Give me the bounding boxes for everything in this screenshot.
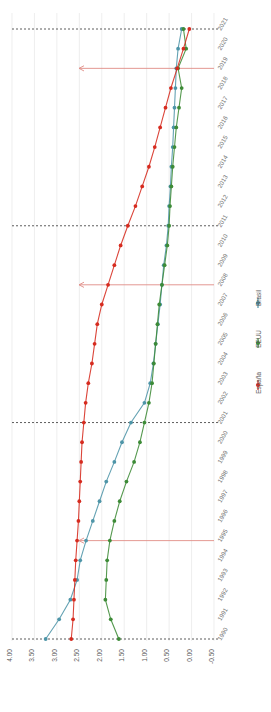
data-point [165, 244, 169, 248]
value-axis-tick: 1.50 [118, 649, 125, 662]
data-point [163, 263, 167, 267]
data-point [120, 440, 124, 444]
data-point [169, 86, 173, 90]
data-point [171, 165, 175, 169]
data-point [173, 145, 177, 149]
data-point [140, 185, 144, 189]
data-point [78, 558, 82, 562]
data-point [154, 342, 158, 346]
data-point [173, 106, 177, 110]
data-point [93, 342, 97, 346]
data-point [176, 47, 180, 51]
data-point [125, 480, 129, 484]
data-point [129, 421, 133, 425]
data-point [68, 598, 72, 602]
value-axis-tick: 0.50 [163, 649, 170, 662]
data-point [104, 480, 108, 484]
data-point [182, 47, 186, 51]
data-point [104, 578, 108, 582]
data-point [106, 283, 110, 287]
data-point [73, 578, 77, 582]
data-point [157, 303, 161, 307]
data-point [169, 185, 173, 189]
data-point [132, 460, 136, 464]
data-point [156, 322, 160, 326]
data-point [180, 86, 184, 90]
data-point [174, 86, 178, 90]
value-axis-tick: 0.00 [186, 649, 193, 662]
data-point [158, 125, 162, 129]
data-point [112, 519, 116, 523]
data-point [95, 322, 99, 326]
data-point [117, 637, 121, 641]
data-point [187, 27, 191, 31]
data-point [80, 440, 84, 444]
data-point [72, 598, 76, 602]
data-point [57, 617, 61, 621]
chart-svg: 4.003.503.002.502.001.501.000.500.00-0.5… [0, 0, 271, 712]
data-point [109, 617, 113, 621]
data-point [177, 106, 181, 110]
data-point [90, 362, 94, 366]
data-point [182, 27, 186, 31]
data-point [150, 381, 154, 385]
chart-root: 4.003.503.002.502.001.501.000.500.00-0.5… [0, 0, 271, 712]
data-point [77, 499, 81, 503]
data-point [98, 499, 102, 503]
data-point [126, 224, 130, 228]
value-axis-tick: 2.50 [73, 649, 80, 662]
data-point [147, 165, 151, 169]
data-point [77, 519, 81, 523]
data-point [79, 460, 83, 464]
data-point [164, 106, 168, 110]
data-point [168, 204, 172, 208]
data-point [143, 401, 147, 405]
data-point [100, 303, 104, 307]
value-axis-tick: 4.00 [6, 649, 13, 662]
data-point [78, 480, 82, 484]
data-point [153, 145, 157, 149]
data-point [112, 460, 116, 464]
data-point [143, 421, 147, 425]
data-point [108, 539, 112, 543]
data-point [71, 617, 75, 621]
data-point [174, 125, 178, 129]
data-point [147, 401, 151, 405]
data-point [44, 637, 48, 641]
data-point [138, 440, 142, 444]
chart-background [0, 0, 271, 712]
data-point [74, 558, 78, 562]
value-axis-tick: -0.50 [208, 649, 215, 664]
data-point [118, 499, 122, 503]
chart-plot-area: 4.003.503.002.502.001.501.000.500.00-0.5… [0, 0, 271, 712]
value-axis-tick: 3.50 [28, 649, 35, 662]
value-axis-tick: 1.00 [141, 649, 148, 662]
data-point [175, 66, 179, 70]
legend-label-eeuu: EEUU [255, 330, 262, 348]
data-point [160, 283, 164, 287]
data-point [69, 637, 73, 641]
legend-label-españa: España [255, 372, 263, 394]
data-point [119, 244, 123, 248]
data-point [86, 381, 90, 385]
data-point [84, 401, 88, 405]
data-point [152, 362, 156, 366]
data-point [91, 519, 95, 523]
data-point [167, 224, 171, 228]
data-point [84, 539, 88, 543]
value-axis-tick: 2.00 [96, 649, 103, 662]
data-point [112, 263, 116, 267]
value-axis-tick: 3.00 [51, 649, 58, 662]
data-point [82, 421, 86, 425]
data-point [134, 204, 138, 208]
data-point [103, 598, 107, 602]
data-point [75, 539, 79, 543]
legend[interactable]: BrasilEEUUEspaña [255, 290, 263, 394]
legend-label-brasil: Brasil [255, 290, 262, 306]
data-point [105, 558, 109, 562]
